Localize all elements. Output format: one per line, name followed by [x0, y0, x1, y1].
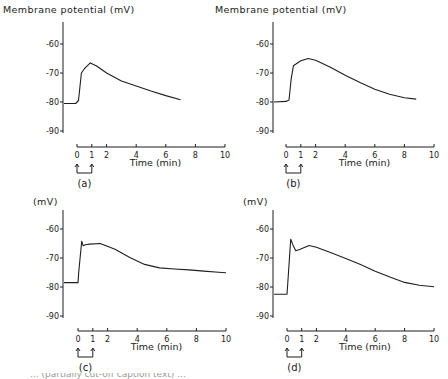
y-tick-label: -70: [46, 69, 59, 78]
x-tick-label: 0: [74, 151, 79, 160]
y-axis-title: (mV): [243, 196, 268, 207]
y-axis-title: Membrane potential (mV): [3, 4, 135, 15]
membrane-potential-trace: [64, 241, 226, 282]
panel-label: (b): [286, 178, 300, 189]
panel-label: (a): [77, 178, 91, 189]
x-tick-label: 1: [299, 335, 304, 344]
x-tick-label: 8: [402, 151, 407, 160]
y-tick-label: -90: [46, 127, 59, 136]
x-tick-label: 1: [89, 151, 94, 160]
x-tick-label: 2: [104, 151, 109, 160]
x-tick-label: 1: [298, 151, 303, 160]
x-tick-label: 2: [313, 151, 318, 160]
x-tick-label: 2: [314, 335, 319, 344]
x-tick-label: 10: [429, 151, 439, 160]
x-tick-label: 0: [75, 335, 80, 344]
x-axis-title: Time (min): [130, 341, 183, 352]
caption-text: ... (partially cut-off caption text) ...: [30, 373, 186, 379]
x-axis-title: Time (min): [338, 157, 391, 168]
caption-cutoff: ... (partially cut-off caption text) ...: [0, 373, 448, 379]
y-tick-label: -80: [46, 98, 59, 107]
y-tick-label: -60: [256, 225, 269, 234]
x-tick-label: 10: [220, 151, 230, 160]
panel-d: (mV)-60-70-80-9001246810Time (min)(d): [243, 196, 439, 373]
panel-label: (d): [287, 362, 301, 373]
y-tick-label: -80: [46, 283, 59, 292]
y-tick-label: -80: [256, 283, 269, 292]
panel-a: Membrane potential (mV)-60-70-80-9001246…: [3, 4, 230, 189]
figure: Membrane potential (mV)-60-70-80-9001246…: [0, 0, 448, 379]
x-tick-label: 8: [194, 335, 199, 344]
y-axis-title: (mV): [33, 196, 58, 207]
y-tick-label: -60: [46, 225, 59, 234]
panel-b: Membrane potential (mV)-60-70-80-9001246…: [215, 4, 439, 189]
stimulus-bracket: [286, 164, 301, 173]
membrane-potential-trace: [64, 63, 181, 104]
y-tick-label: -70: [46, 254, 59, 263]
x-tick-label: 10: [221, 335, 231, 344]
y-tick-label: -80: [256, 98, 269, 107]
y-tick-label: -90: [256, 312, 269, 321]
y-tick-label: -90: [46, 312, 59, 321]
y-tick-label: -70: [256, 69, 269, 78]
x-tick-label: 0: [284, 335, 289, 344]
panel-c: (mV)-60-70-80-9001246810Time (min)(c): [33, 196, 231, 373]
y-tick-label: -70: [256, 254, 269, 263]
x-tick-label: 8: [402, 335, 407, 344]
x-tick-label: 2: [105, 335, 110, 344]
x-axis-title: Time (min): [338, 341, 391, 352]
x-axis-title: Time (min): [129, 157, 182, 168]
x-tick-label: 1: [90, 335, 95, 344]
stimulus-bracket: [77, 164, 92, 173]
x-tick-label: 8: [193, 151, 198, 160]
panel-label: (c): [79, 362, 92, 373]
y-tick-label: -90: [256, 127, 269, 136]
membrane-potential-figure: Membrane potential (mV)-60-70-80-9001246…: [0, 0, 448, 379]
membrane-potential-trace: [274, 59, 416, 103]
y-tick-label: -60: [46, 40, 59, 49]
x-tick-label: 0: [283, 151, 288, 160]
x-tick-label: 10: [429, 335, 439, 344]
stimulus-bracket: [287, 348, 302, 357]
membrane-potential-trace: [274, 239, 434, 294]
stimulus-bracket: [78, 348, 93, 357]
y-tick-label: -60: [256, 40, 269, 49]
y-axis-title: Membrane potential (mV): [215, 4, 347, 15]
